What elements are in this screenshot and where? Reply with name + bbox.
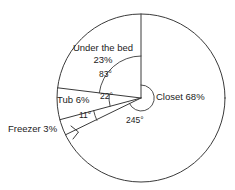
slice-label-closet: Closet 68% <box>156 92 205 102</box>
slice-label-freezer: Freezer 3% <box>8 124 57 134</box>
slice-value-under-the-bed: 23% <box>64 55 142 65</box>
angle-label-11: 11° <box>79 111 91 120</box>
angle-arc-11 <box>94 110 97 120</box>
angle-label-22: 22° <box>100 92 113 101</box>
angle-label-83: 83° <box>99 70 112 79</box>
freezer-leader-line <box>71 126 79 139</box>
angle-arc-245 <box>129 85 154 111</box>
slice-label-under-the-bed: Under the bed <box>64 43 142 53</box>
angle-label-245: 245° <box>126 116 144 125</box>
pie-chart-figure: Under the bed 23% 83° Tub 6% 22° 11° Fre… <box>0 0 235 190</box>
slice-label-tub: Tub 6% <box>57 95 89 105</box>
